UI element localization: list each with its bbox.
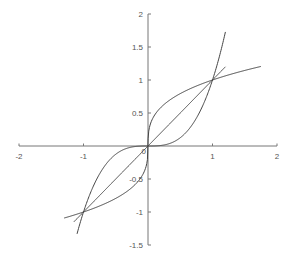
x-tick-label: -2	[15, 152, 23, 161]
y-tick-label: -1.5	[129, 241, 143, 250]
x-tick-label: 1	[210, 152, 215, 161]
y-tick-label: -1	[136, 208, 144, 217]
curve-identity	[74, 67, 226, 222]
function-plot: -2-112-1.5-1-0.50.511.520	[0, 0, 294, 258]
y-tick-label: 0.5	[132, 109, 144, 118]
curve-cubic	[77, 32, 225, 234]
y-tick-label: 1.5	[132, 43, 144, 52]
axes	[19, 14, 277, 245]
y-tick-label: 1	[139, 76, 144, 85]
x-tick-label: 2	[275, 152, 280, 161]
curve-cube-root	[64, 66, 261, 218]
x-tick-label: -1	[80, 152, 88, 161]
curves	[64, 32, 261, 234]
y-tick-label: 2	[139, 10, 144, 19]
